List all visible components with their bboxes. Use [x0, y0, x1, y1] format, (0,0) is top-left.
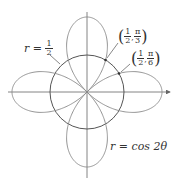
point1-label: (12,π3) — [118, 27, 147, 46]
circle-fraction: 12 — [45, 40, 52, 57]
intersection-point-2 — [118, 72, 121, 75]
p2-rden: 2 — [138, 59, 143, 67]
polar-diagram: r = 12 (12,π3) (12,π6) r = cos 2θ — [0, 0, 178, 181]
p1-rden: 2 — [125, 37, 130, 45]
circle-eq-lhs: r = — [24, 42, 42, 55]
point2-label: (12,π6) — [131, 49, 160, 68]
plot-svg — [0, 0, 178, 181]
circle-den: 2 — [46, 49, 51, 57]
arrow-point1 — [107, 43, 118, 58]
p2-tden: 6 — [148, 59, 153, 67]
circle-label: r = 12 — [24, 40, 53, 57]
arrow-point2 — [121, 64, 130, 72]
p1-tden: 3 — [135, 37, 140, 45]
intersection-point-1 — [104, 59, 107, 62]
rose-label: r = cos 2θ — [110, 140, 167, 153]
